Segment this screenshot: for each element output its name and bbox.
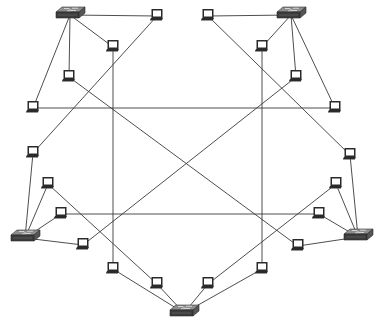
laptop-icon — [289, 70, 302, 82]
laptop-icon — [343, 148, 356, 160]
link-S1-Ld — [33, 15, 70, 108]
laptop-icon — [76, 238, 89, 250]
switch-icon — [277, 7, 306, 18]
link-Le-Lm — [208, 16, 350, 155]
laptop-icon — [106, 262, 119, 274]
laptop-icon — [328, 101, 341, 113]
laptop-icon — [54, 207, 67, 219]
link-S1-Lb — [70, 15, 113, 47]
laptop-icon — [26, 146, 39, 158]
switch-icon — [344, 229, 373, 240]
network-diagram — [0, 0, 379, 331]
laptop-icon — [329, 177, 342, 189]
laptop-icon — [62, 70, 75, 82]
laptop-icon — [255, 262, 268, 274]
link-Ln-Ls — [208, 184, 336, 284]
switch-icon — [56, 7, 85, 18]
link-S2-Lh — [291, 15, 335, 108]
link-S4-Lm — [350, 155, 358, 237]
link-S3-Li — [25, 153, 33, 238]
laptop-icon — [255, 40, 268, 52]
laptop-icon — [291, 239, 304, 251]
switch-icon — [11, 230, 40, 241]
link-La-Li — [33, 16, 157, 153]
laptop-icon — [41, 177, 54, 189]
switch-icon — [170, 305, 199, 316]
laptop-icon — [26, 101, 39, 113]
laptop-icon — [150, 277, 163, 289]
laptop-icon — [201, 9, 214, 21]
nodes-layer — [11, 7, 373, 316]
laptop-icon — [150, 9, 163, 21]
laptop-icon — [312, 207, 325, 219]
link-S1-Lc — [69, 15, 70, 77]
laptop-icon — [201, 277, 214, 289]
link-Lg-Ll — [83, 77, 296, 245]
laptop-icon — [106, 40, 119, 52]
link-S1-La — [70, 15, 157, 16]
edges-layer — [25, 15, 358, 313]
